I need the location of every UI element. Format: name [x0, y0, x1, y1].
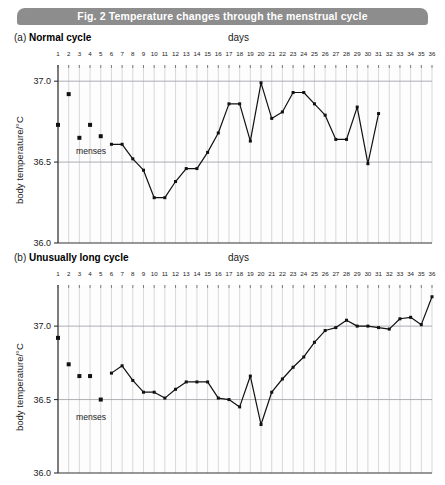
- menses-data-point: [56, 123, 60, 127]
- day-tick-label: 27: [332, 48, 339, 59]
- day-tick-label: 7: [120, 48, 123, 59]
- day-tick-label: 9: [142, 48, 145, 59]
- day-tick-label: 3: [78, 48, 81, 59]
- data-point: [377, 112, 380, 115]
- menses-data-point: [99, 134, 103, 138]
- data-point: [356, 106, 359, 109]
- panel-a-letter: (a): [14, 32, 26, 43]
- data-point: [302, 91, 305, 94]
- day-tick-label: 22: [279, 268, 286, 279]
- panel-b-plot: 37.036.536.0: [0, 279, 445, 479]
- day-tick-label: 17: [226, 48, 233, 59]
- data-point: [121, 364, 124, 367]
- day-tick-label: 20: [258, 48, 265, 59]
- data-point: [195, 167, 198, 170]
- panel-b-y-axis-label: body temperature/°C: [14, 343, 25, 431]
- day-tick-label: 11: [162, 268, 168, 279]
- day-tick-label: 30: [364, 48, 371, 59]
- panel-b-letter: (b): [14, 252, 26, 263]
- data-point: [420, 323, 423, 326]
- data-point: [398, 317, 401, 320]
- day-tick-label: 19: [247, 48, 254, 59]
- data-point: [195, 380, 198, 383]
- day-tick-label: 9: [142, 268, 145, 279]
- day-tick-label: 2: [67, 48, 70, 59]
- day-tick-label: 18: [236, 48, 243, 59]
- data-point: [377, 326, 380, 329]
- data-point: [270, 117, 273, 120]
- day-tick-label: 10: [151, 48, 158, 59]
- data-point: [131, 157, 134, 160]
- data-point: [142, 391, 145, 394]
- data-point: [238, 102, 241, 105]
- y-tick-label: 36.5: [33, 395, 51, 405]
- panel-a-header: (a) Normal cycle: [14, 32, 91, 46]
- day-tick-label: 34: [407, 268, 414, 279]
- data-point: [163, 397, 166, 400]
- day-tick-label: 12: [172, 268, 179, 279]
- data-point: [388, 328, 391, 331]
- data-point: [313, 341, 316, 344]
- data-point: [302, 355, 305, 358]
- panel-b-days-label: days: [228, 252, 249, 263]
- data-point: [249, 140, 252, 143]
- panel-b-plot-svg: 37.036.536.0: [0, 279, 445, 479]
- day-tick-label: 13: [183, 48, 190, 59]
- day-tick-label: 23: [290, 48, 297, 59]
- day-tick-label: 8: [131, 48, 134, 59]
- plot-background: [58, 285, 432, 473]
- day-tick-label: 7: [120, 268, 123, 279]
- day-tick-label: 33: [396, 268, 403, 279]
- day-tick-label: 32: [386, 268, 393, 279]
- day-tick-label: 17: [226, 268, 233, 279]
- day-tick-label: 21: [268, 48, 275, 59]
- data-point: [366, 325, 369, 328]
- day-tick-label: 25: [311, 48, 318, 59]
- data-point: [345, 138, 348, 141]
- data-point: [227, 102, 230, 105]
- data-point: [206, 151, 209, 154]
- day-tick-label: 28: [343, 48, 350, 59]
- day-tick-label: 12: [172, 48, 179, 59]
- data-point: [206, 380, 209, 383]
- data-point: [131, 379, 134, 382]
- data-point: [260, 423, 263, 426]
- data-point: [153, 391, 156, 394]
- data-point: [324, 114, 327, 117]
- day-tick-label: 34: [407, 48, 414, 59]
- y-tick-label: 36.0: [33, 238, 51, 248]
- day-tick-label: 6: [110, 48, 113, 59]
- data-point: [163, 196, 166, 199]
- y-tick-label: 37.0: [33, 321, 51, 331]
- day-tick-label: 20: [258, 268, 265, 279]
- data-point: [121, 143, 124, 146]
- day-tick-label: 2: [67, 268, 70, 279]
- data-point: [110, 143, 113, 146]
- data-point: [185, 380, 188, 383]
- panel-normal-cycle: (a) Normal cycle days 123456789101112131…: [0, 32, 445, 247]
- day-tick-label: 1: [56, 48, 59, 59]
- day-tick-label: 35: [418, 268, 425, 279]
- menses-data-point: [88, 374, 92, 378]
- day-tick-label: 4: [88, 268, 91, 279]
- data-point: [153, 196, 156, 199]
- data-point: [281, 378, 284, 381]
- panel-b-title: Unusually long cycle: [29, 252, 128, 263]
- day-tick-label: 16: [215, 268, 222, 279]
- day-tick-label: 32: [386, 48, 393, 59]
- menses-data-point: [67, 362, 71, 366]
- day-tick-label: 3: [78, 268, 81, 279]
- panel-a-plot: 37.036.536.0: [0, 59, 445, 249]
- day-tick-label: 33: [396, 48, 403, 59]
- day-tick-label: 14: [193, 48, 200, 59]
- data-point: [185, 167, 188, 170]
- panel-a-day-tick-labels: 1234567891011121314151617181920212223242…: [0, 48, 445, 59]
- data-point: [431, 295, 434, 298]
- data-point: [270, 391, 273, 394]
- day-tick-label: 18: [236, 268, 243, 279]
- panel-a-y-axis-label: body temperature/°C: [14, 116, 25, 204]
- data-point: [409, 316, 412, 319]
- panel-b-day-tick-labels: 1234567891011121314151617181920212223242…: [0, 268, 445, 279]
- data-point: [324, 329, 327, 332]
- day-tick-label: 5: [99, 48, 102, 59]
